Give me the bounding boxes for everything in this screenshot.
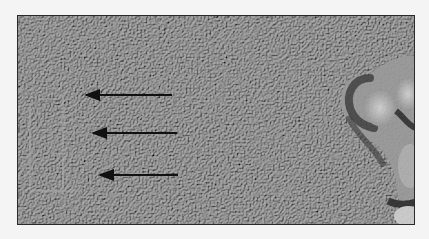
micrograph-image xyxy=(17,15,415,225)
texture-layer xyxy=(18,16,415,225)
